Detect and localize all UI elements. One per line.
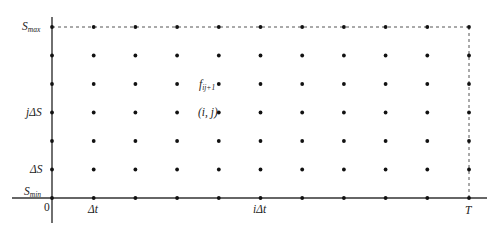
grid-point [92,82,96,86]
grid-point [217,25,221,29]
grid-point [259,168,263,172]
grid-point [384,25,388,29]
grid-point [217,54,221,58]
y-tick-label-smin: Smin [24,185,41,199]
grid-point [217,82,221,86]
grid-point [50,82,54,86]
grid-point [425,111,429,115]
grid-point [134,196,138,200]
point-label-ij: (i, j) [198,106,218,119]
grid-point [92,111,96,115]
grid-point [175,111,179,115]
grid-point [259,139,263,143]
grid-point [300,54,304,58]
grid-point [134,168,138,172]
grid-point [134,25,138,29]
grid-point [342,25,346,29]
grid-point [467,54,471,58]
grid-point [50,111,54,115]
grid-point [467,111,471,115]
grid-point [384,54,388,58]
grid-point [175,54,179,58]
x-tick-label-idt: iΔt [253,203,267,215]
grid-point [342,139,346,143]
grid-point [425,54,429,58]
grid-point [92,168,96,172]
grid-point [50,168,54,172]
grid-point [134,54,138,58]
grid-point [300,196,304,200]
grid-point [50,196,54,200]
y-tick-label-jds: jΔS [24,106,42,119]
grid-point [425,82,429,86]
grid-point [384,139,388,143]
grid-point [217,196,221,200]
grid-point [342,111,346,115]
grid-point [134,82,138,86]
x-tick-label-dt: Δt [87,203,99,215]
grid-point [259,111,263,115]
grid-point [342,54,346,58]
grid-point [342,168,346,172]
grid-point [175,25,179,29]
grid-point [50,25,54,29]
grid-point [425,168,429,172]
axis-labels: 0 Δt iΔt T Smin ΔS jΔS Smax fij+1 (i, j) [22,20,473,216]
y-tick-label-smax: Smax [22,20,41,34]
grid-point [467,82,471,86]
grid-point [92,139,96,143]
y-tick-label-ds: ΔS [29,163,43,175]
grid-point [425,139,429,143]
grid-point [134,111,138,115]
grid-point [467,196,471,200]
grid-point [384,111,388,115]
grid-point [259,196,263,200]
grid-point [467,139,471,143]
grid-points [50,25,471,200]
grid-point [175,139,179,143]
grid-point [300,111,304,115]
grid-point [342,196,346,200]
grid-point [384,82,388,86]
grid-point [259,82,263,86]
grid-point [384,168,388,172]
grid-point [467,168,471,172]
grid-point [217,139,221,143]
grid-point [425,25,429,29]
grid-point [217,168,221,172]
axes [12,17,487,223]
grid-point [259,25,263,29]
grid-point [92,25,96,29]
finite-difference-grid-diagram: 0 Δt iΔt T Smin ΔS jΔS Smax fij+1 (i, j) [0,0,503,230]
grid-point [92,196,96,200]
grid-point [425,196,429,200]
origin-label: 0 [44,201,50,213]
grid-point [134,139,138,143]
grid-point [384,196,388,200]
grid-point [300,82,304,86]
grid-point [175,196,179,200]
grid-point [259,54,263,58]
grid-point [300,139,304,143]
point-label-f-ij1: fij+1 [199,78,215,92]
grid-point [175,82,179,86]
grid-point [300,25,304,29]
grid-point [175,168,179,172]
x-tick-label-T: T [465,204,473,216]
grid-point [300,168,304,172]
grid-point [50,54,54,58]
grid-point [467,25,471,29]
grid-point [92,54,96,58]
grid-point [342,82,346,86]
grid-point [50,139,54,143]
